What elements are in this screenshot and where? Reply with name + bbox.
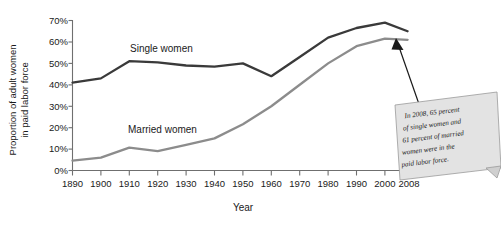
x-axis: 1890 1900 1910 1920 1930 1940 1950 1960 … [62, 171, 420, 214]
line-chart-svg: Proportion of adult women in paid labor … [0, 0, 501, 226]
x-tick-label-1890: 1890 [62, 178, 83, 189]
x-tick-label-1970: 1970 [289, 178, 310, 189]
y-axis: 70% 60% 50% 40% 30% 20% 10% 0% [49, 15, 73, 176]
series-line-single-women [73, 23, 408, 83]
x-tick-label-1960: 1960 [261, 178, 282, 189]
x-tick-label-1920: 1920 [147, 178, 168, 189]
y-tick-label-70: 70% [49, 15, 69, 26]
annotation-callout: In 2008, 65 percent of single women and … [392, 38, 501, 180]
x-tick-label-2000: 2000 [374, 178, 395, 189]
y-tick-label-20: 20% [49, 122, 69, 133]
y-tick-label-60: 60% [49, 36, 69, 47]
y-tick-label-50: 50% [49, 58, 69, 69]
x-axis-title: Year [233, 202, 254, 213]
x-tick-label-1900: 1900 [90, 178, 111, 189]
series-label-single-women: Single women [130, 43, 193, 54]
x-tick-label-1950: 1950 [232, 178, 253, 189]
callout-leader-line [398, 44, 420, 107]
series-line-married-women [73, 39, 408, 161]
callout-fold-corner [486, 166, 501, 178]
y-tick-label-10: 10% [49, 143, 69, 154]
x-tick-label-1930: 1930 [176, 178, 197, 189]
y-axis-title: Proportion of adult women in paid labor … [7, 45, 30, 156]
y-tick-label-40: 40% [49, 79, 69, 90]
y-axis-title-line2: in paid labor force [19, 62, 30, 138]
series-label-married-women: Married women [128, 124, 197, 135]
x-tick-label-1980: 1980 [318, 178, 339, 189]
x-tick-label-1910: 1910 [119, 178, 140, 189]
y-tick-label-30: 30% [49, 101, 69, 112]
y-axis-title-line1: Proportion of adult women [7, 45, 18, 156]
x-tick-label-1990: 1990 [346, 178, 367, 189]
x-tick-label-1940: 1940 [204, 178, 225, 189]
chart-figure: Proportion of adult women in paid labor … [0, 0, 501, 226]
y-tick-label-0: 0% [54, 165, 68, 176]
